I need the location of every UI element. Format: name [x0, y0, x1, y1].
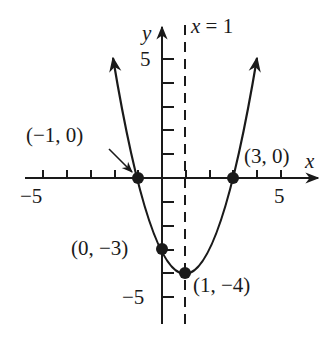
- point-neg1-0: [132, 172, 144, 184]
- point-0-neg3: [156, 243, 168, 255]
- point-label-0-neg3: (0, −3): [71, 236, 128, 260]
- point-label-3-0: (3, 0): [244, 144, 290, 168]
- parabola-graph: y x x = 1 −5 5 5 −5 (−1, 0) (3, 0) (0, −…: [0, 0, 327, 340]
- point-vertex-1-neg4: [179, 267, 191, 279]
- tick-label-y-neg5: −5: [122, 285, 144, 309]
- x-axis-label: x: [304, 149, 315, 173]
- tick-label-x-neg5: −5: [20, 184, 42, 208]
- point-3-0: [227, 172, 239, 184]
- point-label-neg1-0: (−1, 0): [26, 123, 83, 147]
- tick-label-y-5: 5: [140, 47, 151, 71]
- symmetry-label-value: = 1: [200, 14, 233, 38]
- callout-arrow: [109, 149, 132, 172]
- tick-label-x-5: 5: [274, 184, 285, 208]
- symmetry-label: x = 1: [190, 14, 233, 38]
- y-axis-label: y: [140, 21, 152, 45]
- point-label-1-neg4: (1, −4): [193, 273, 250, 297]
